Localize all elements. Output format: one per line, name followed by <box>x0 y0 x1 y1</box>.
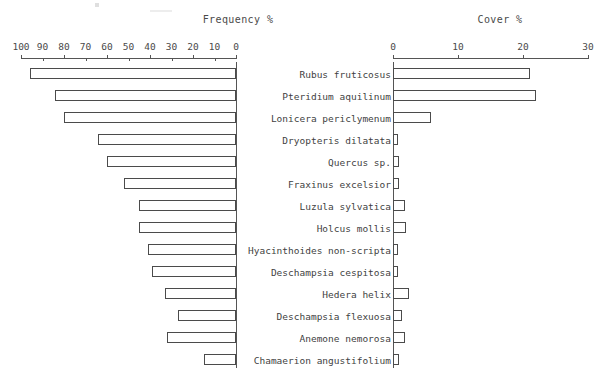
frequency-tick-label: 70 <box>80 41 91 52</box>
species-label: Holcus mollis <box>317 223 391 234</box>
cover-bar <box>393 156 399 167</box>
chart-canvas: Frequency % Cover % 10090807060504030201… <box>0 0 607 386</box>
cover-bar <box>393 68 530 79</box>
species-label: Rubus fruticosus <box>299 69 391 80</box>
frequency-tick-label: 90 <box>37 41 48 52</box>
frequency-tick-label: 100 <box>12 41 29 52</box>
frequency-axis-tick <box>172 58 173 61</box>
species-label: Deschampsia flexuosa <box>277 311 391 322</box>
frequency-tick-label: 30 <box>166 41 177 52</box>
frequency-axis-tick <box>86 58 87 61</box>
cover-tick-label: 0 <box>390 41 396 52</box>
cover-bar <box>393 354 399 365</box>
species-label: Dryopteris dilatata <box>282 135 391 146</box>
cover-bar <box>393 310 402 321</box>
frequency-axis-tick <box>21 55 22 59</box>
cover-bar <box>393 112 431 123</box>
species-label: Fraxinus excelsior <box>288 179 391 190</box>
scan-artifact <box>95 3 99 7</box>
cover-plot <box>0 62 607 372</box>
frequency-tick-label: 20 <box>187 41 198 52</box>
frequency-axis-tick <box>43 58 44 61</box>
species-label: Chamaerion angustifolium <box>254 355 391 366</box>
cover-tick-label: 10 <box>452 41 463 52</box>
cover-axis-line <box>393 58 589 59</box>
frequency-tick-label: 60 <box>101 41 112 52</box>
cover-bar <box>393 266 398 277</box>
frequency-axis-tick <box>236 55 237 59</box>
cover-axis-labels: 0102030 <box>360 41 607 53</box>
frequency-axis-tick <box>150 55 151 59</box>
frequency-axis-tick <box>107 55 108 59</box>
cover-bar <box>393 134 398 145</box>
species-label: Pteridium aquilinum <box>282 91 391 102</box>
species-label: Hedera helix <box>322 289 391 300</box>
frequency-tick-label: 10 <box>209 41 220 52</box>
frequency-axis-labels: 1009080706050403020100 <box>0 41 250 53</box>
cover-axis-tick <box>458 55 459 59</box>
cover-bar <box>393 244 398 255</box>
frequency-tick-label: 80 <box>58 41 69 52</box>
cover-bar <box>393 222 406 233</box>
species-label: Anemone nemorosa <box>299 333 391 344</box>
cover-tick-label: 20 <box>517 41 528 52</box>
frequency-axis-tick <box>193 55 194 59</box>
cover-bar <box>393 332 405 343</box>
frequency-tick-label: 0 <box>233 41 239 52</box>
species-label: Lonicera periclymenum <box>271 113 391 124</box>
cover-tick-label: 30 <box>582 41 593 52</box>
cover-bar <box>393 200 405 211</box>
scan-artifact <box>150 10 172 12</box>
frequency-axis-tick <box>64 55 65 59</box>
species-label: Quercus sp. <box>328 157 391 168</box>
frequency-tick-label: 50 <box>123 41 134 52</box>
cover-axis-tick <box>588 55 589 59</box>
species-label: Deschampsia cespitosa <box>271 267 391 278</box>
frequency-axis-tick <box>215 58 216 61</box>
species-label: Luzula sylvatica <box>299 201 391 212</box>
frequency-panel-title: Frequency % <box>128 14 348 25</box>
cover-bar <box>393 288 409 299</box>
cover-baseline <box>393 62 394 368</box>
species-label: Hyacinthoides non-scripta <box>248 245 391 256</box>
cover-axis-tick <box>393 55 394 59</box>
cover-bar <box>393 90 536 101</box>
cover-axis-tick <box>523 55 524 59</box>
frequency-tick-label: 40 <box>144 41 155 52</box>
frequency-axis-tick <box>129 58 130 61</box>
cover-bar <box>393 178 399 189</box>
cover-panel-title: Cover % <box>400 14 600 25</box>
